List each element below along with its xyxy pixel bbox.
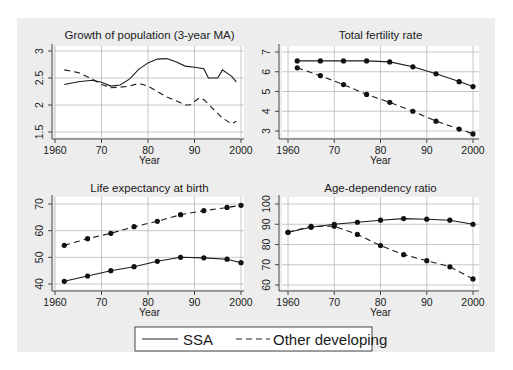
data-point-marker bbox=[285, 230, 290, 235]
data-point-marker bbox=[85, 273, 90, 278]
data-point-marker bbox=[433, 71, 438, 76]
x-axis-label: Year bbox=[370, 306, 392, 318]
y-tick-label: 70 bbox=[33, 198, 45, 210]
data-point-marker bbox=[447, 264, 452, 269]
x-axis-label: Year bbox=[370, 154, 392, 166]
y-tick-label: 4 bbox=[260, 108, 272, 114]
panel-title: Age-dependency ratio bbox=[324, 182, 437, 194]
x-tick-label: 90 bbox=[189, 296, 201, 308]
panel-fertility-rate: 3456719607080902000YearTotal fertility r… bbox=[260, 29, 485, 166]
panel-title: Growth of population (3-year MA) bbox=[64, 29, 234, 41]
data-point-marker bbox=[433, 119, 438, 124]
data-point-marker bbox=[364, 58, 369, 63]
data-point-marker bbox=[62, 279, 67, 284]
data-point-marker bbox=[355, 220, 360, 225]
legend: SSA Other developing bbox=[135, 327, 387, 351]
y-tick-label: 1.5 bbox=[33, 125, 45, 140]
x-tick-label: 1960 bbox=[276, 296, 300, 308]
panel-life-expectancy: 4050607019607080902000YearLife expectanc… bbox=[33, 182, 253, 318]
legend-label-other-developing: Other developing bbox=[273, 331, 387, 348]
data-point-marker bbox=[295, 65, 300, 70]
x-tick-label: 70 bbox=[328, 144, 340, 156]
data-point-marker bbox=[224, 205, 229, 210]
data-point-marker bbox=[131, 224, 136, 229]
data-point-marker bbox=[318, 73, 323, 78]
y-tick-label: 90 bbox=[260, 218, 272, 230]
x-axis-label: Year bbox=[139, 306, 161, 318]
x-tick-label: 2000 bbox=[229, 144, 253, 156]
x-tick-label: 90 bbox=[421, 296, 433, 308]
data-point-marker bbox=[470, 84, 475, 89]
data-point-marker bbox=[355, 232, 360, 237]
y-tick-label: 60 bbox=[260, 279, 272, 291]
data-point-marker bbox=[155, 219, 160, 224]
data-point-marker bbox=[332, 224, 337, 229]
data-point-marker bbox=[108, 268, 113, 273]
data-point-marker bbox=[85, 236, 90, 241]
y-tick-label: 50 bbox=[33, 251, 45, 263]
data-point-marker bbox=[470, 222, 475, 227]
data-point-marker bbox=[387, 59, 392, 64]
data-point-marker bbox=[341, 82, 346, 87]
y-tick-label: 2 bbox=[33, 102, 45, 108]
x-tick-label: 70 bbox=[96, 144, 108, 156]
x-tick-label: 1960 bbox=[276, 144, 300, 156]
y-tick-label: 60 bbox=[33, 225, 45, 237]
x-tick-label: 70 bbox=[96, 296, 108, 308]
panel-age-dependency: 6070809010019607080902000YearAge-depende… bbox=[260, 182, 485, 318]
y-tick-label: 3 bbox=[33, 48, 45, 54]
data-point-marker bbox=[108, 231, 113, 236]
panel-title: Total fertility rate bbox=[339, 29, 423, 41]
data-point-marker bbox=[131, 264, 136, 269]
y-tick-label: 2.5 bbox=[33, 71, 45, 86]
chart-canvas: 1.522.5319607080902000YearGrowth of popu… bbox=[0, 0, 513, 370]
plot-area bbox=[55, 197, 244, 289]
data-point-marker bbox=[470, 131, 475, 136]
data-point-marker bbox=[155, 259, 160, 264]
panel-population-growth: 1.522.5319607080902000YearGrowth of popu… bbox=[33, 29, 253, 166]
y-tick-label: 3 bbox=[260, 128, 272, 134]
y-tick-label: 7 bbox=[260, 49, 272, 55]
y-tick-label: 70 bbox=[260, 259, 272, 271]
panel-title: Life expectancy at birth bbox=[90, 182, 208, 194]
data-point-marker bbox=[178, 212, 183, 217]
data-point-marker bbox=[238, 260, 243, 265]
data-point-marker bbox=[341, 58, 346, 63]
data-point-marker bbox=[238, 203, 243, 208]
data-point-marker bbox=[378, 243, 383, 248]
data-point-marker bbox=[178, 255, 183, 260]
data-point-marker bbox=[447, 218, 452, 223]
y-tick-label: 80 bbox=[260, 239, 272, 251]
x-axis-label: Year bbox=[139, 154, 161, 166]
data-point-marker bbox=[378, 218, 383, 223]
data-point-marker bbox=[410, 64, 415, 69]
data-point-marker bbox=[424, 217, 429, 222]
data-point-marker bbox=[401, 216, 406, 221]
y-tick-label: 100 bbox=[260, 195, 272, 213]
data-point-marker bbox=[470, 276, 475, 281]
x-tick-label: 70 bbox=[328, 296, 340, 308]
data-point-marker bbox=[364, 92, 369, 97]
data-point-marker bbox=[387, 100, 392, 105]
data-point-marker bbox=[309, 224, 314, 229]
data-point-marker bbox=[201, 255, 206, 260]
data-point-marker bbox=[62, 243, 67, 248]
x-tick-label: 90 bbox=[421, 144, 433, 156]
y-tick-label: 6 bbox=[260, 69, 272, 75]
legend-label-ssa: SSA bbox=[183, 331, 213, 348]
x-tick-label: 2000 bbox=[461, 144, 485, 156]
x-tick-label: 1960 bbox=[43, 296, 67, 308]
plot-area bbox=[55, 46, 244, 137]
y-tick-label: 40 bbox=[33, 278, 45, 290]
data-point-marker bbox=[318, 58, 323, 63]
x-tick-label: 1960 bbox=[43, 144, 67, 156]
data-point-marker bbox=[224, 257, 229, 262]
data-point-marker bbox=[401, 252, 406, 257]
x-tick-label: 90 bbox=[189, 144, 201, 156]
data-point-marker bbox=[201, 208, 206, 213]
x-tick-label: 2000 bbox=[461, 296, 485, 308]
data-point-marker bbox=[424, 258, 429, 263]
data-point-marker bbox=[457, 79, 462, 84]
y-tick-label: 5 bbox=[260, 88, 272, 94]
data-point-marker bbox=[295, 58, 300, 63]
